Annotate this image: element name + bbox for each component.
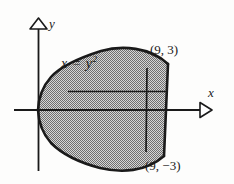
- point-label-upper: (9, 3): [150, 43, 178, 56]
- curve-equation-base: x = y: [61, 56, 92, 71]
- x-axis-arrow-icon: [200, 103, 212, 118]
- y-axis-arrow-icon: [30, 18, 47, 29]
- curve-equation-exponent: 2: [92, 54, 97, 64]
- figure-canvas: [0, 0, 234, 184]
- x-axis-label: x: [208, 86, 214, 99]
- y-axis-label: y: [49, 17, 55, 30]
- curve-equation-label: x = y2: [61, 55, 97, 71]
- point-label-lower: (9, −3): [145, 159, 181, 172]
- parabola-region-figure: y x x = y2 (9, 3) (9, −3): [0, 0, 234, 184]
